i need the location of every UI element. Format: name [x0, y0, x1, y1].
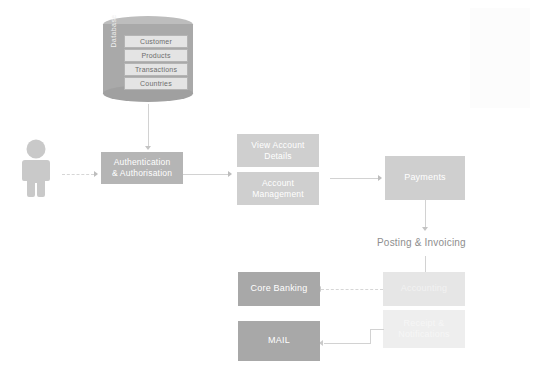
database-cylinder: Database Customer Products Transactions … [103, 16, 193, 102]
person-icon [14, 139, 58, 197]
connector-database-to-authentication [148, 104, 149, 147]
connector-actor-to-authentication [62, 174, 94, 175]
node-authentication-line2: & Authorisation [112, 168, 172, 178]
node-core-banking[interactable]: Core Banking [238, 272, 320, 306]
node-view-account-details-label: View Account Details [251, 140, 304, 161]
node-authentication-label: Authentication & Authorisation [112, 157, 172, 178]
node-view-account-details-line2: Details [264, 151, 291, 161]
node-payments-label: Payments [404, 172, 446, 183]
connector-receipt-to-mail [324, 343, 370, 344]
node-account-management-line2: Management [252, 189, 304, 199]
node-core-banking-label: Core Banking [251, 283, 308, 294]
arrow-actor-to-authentication [94, 171, 98, 177]
node-authentication-line1: Authentication [114, 157, 171, 167]
caption-posting-invoicing: Posting & Invoicing [377, 237, 466, 248]
diagram-canvas: Database Customer Products Transactions … [0, 0, 545, 379]
arrow-payments-to-posting [422, 227, 428, 231]
node-receipt-notifications-label: Receipt & Notifications [398, 318, 450, 341]
node-mail-label: MAIL [268, 335, 290, 346]
connector-services-to-payments [330, 178, 378, 179]
node-account-management-label: Account Management [252, 178, 304, 199]
database-row-list: Customer Products Transactions Countries [124, 35, 188, 91]
node-account-management[interactable]: Account Management [237, 172, 319, 205]
database-row-customer: Customer [124, 35, 188, 48]
node-view-account-details-line1: View Account [251, 140, 304, 150]
node-account-management-line1: Account [262, 178, 294, 188]
connector-receipt-elbow-vertical [370, 329, 371, 344]
database-side-label: Database [105, 8, 121, 54]
database-row-transactions: Transactions [124, 63, 188, 76]
node-mail[interactable]: MAIL [238, 321, 320, 361]
database-row-products: Products [124, 49, 188, 62]
connector-accounting-to-core-banking [321, 289, 383, 290]
node-accounting-label: Accounting [401, 283, 448, 294]
database-row-countries: Countries [124, 77, 188, 90]
node-receipt-notifications[interactable]: Receipt & Notifications [383, 310, 465, 348]
connector-payments-to-posting [425, 200, 426, 228]
node-payments[interactable]: Payments [385, 156, 465, 200]
arrow-services-to-payments [378, 175, 382, 181]
arrow-database-to-authentication [145, 146, 151, 150]
node-view-account-details[interactable]: View Account Details [237, 134, 319, 167]
connector-receipt-elbow-top [370, 329, 384, 330]
connector-authentication-to-services [183, 174, 228, 175]
arrow-authentication-to-services [228, 171, 232, 177]
node-receipt-notifications-line1: Receipt & [404, 318, 445, 328]
node-receipt-notifications-line2: Notifications [398, 329, 450, 339]
node-authentication-authorisation[interactable]: Authentication & Authorisation [101, 152, 183, 184]
scan-artifact [470, 8, 530, 108]
node-accounting[interactable]: Accounting [383, 272, 465, 306]
